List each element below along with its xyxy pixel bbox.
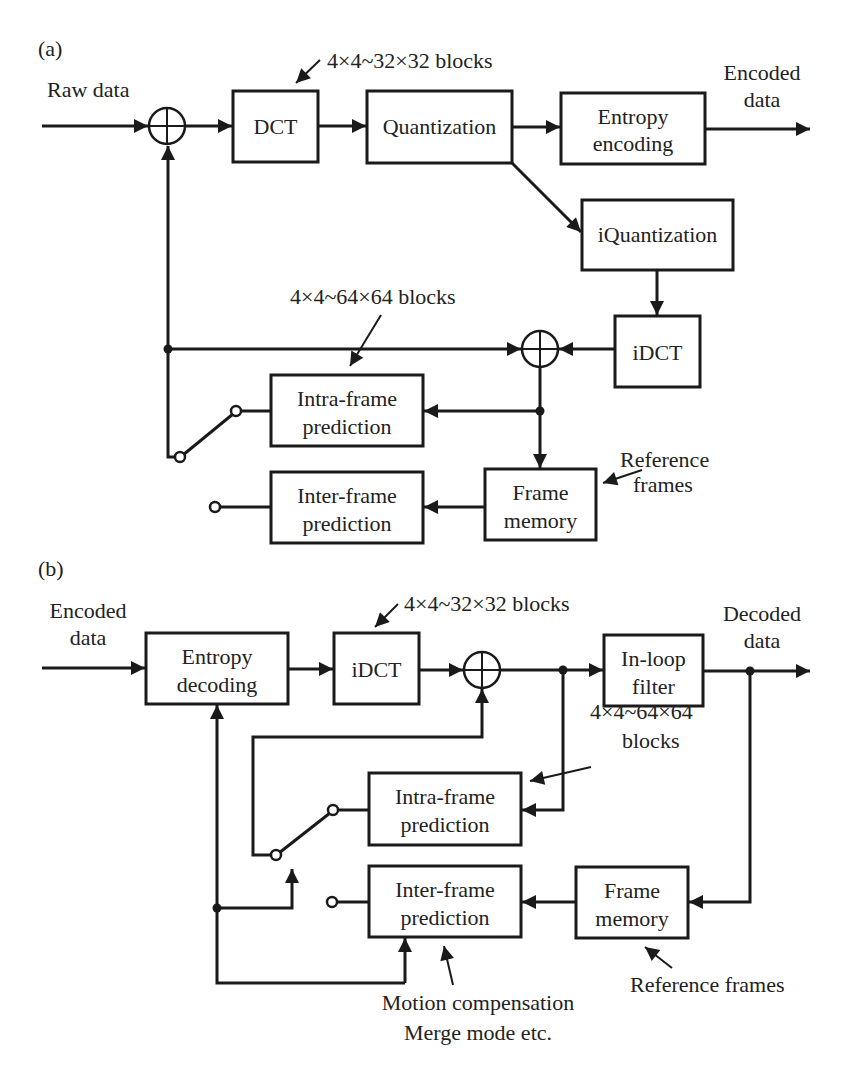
intra-prediction-block-b: Intra-frame prediction (369, 773, 521, 845)
inter-b-label-1: Inter-frame (395, 877, 495, 902)
inter-prediction-block-b: Inter-frame prediction (369, 866, 521, 937)
merge-mode-label: Merge mode etc. (404, 1020, 552, 1045)
panel-b-label: (b) (38, 556, 64, 581)
dct-block: DCT (233, 91, 318, 162)
frame-memory-block-b: Frame memory (576, 867, 688, 938)
arrow-to-intra-b (522, 670, 563, 810)
transform-block-size-b-label: 4×4~32×32 blocks (404, 591, 570, 616)
frame-memory-label-2: memory (504, 508, 577, 533)
entropy-decoding-block: Entropy decoding (146, 633, 288, 704)
intra-label-1: Intra-frame (297, 386, 397, 411)
panel-a-encoder: (a) Raw data DCT 4×4~32×32 blocks Quanti… (38, 36, 810, 543)
intra-b-label-2: prediction (400, 812, 489, 837)
inloop-filter-block: In-loop filter (604, 635, 703, 706)
panel-a-label: (a) (38, 36, 62, 61)
intra-b-label-1: Intra-frame (395, 784, 495, 809)
frame-memory-label-1: Frame (512, 480, 568, 505)
prediction-block-size-b-label-2: blocks (622, 728, 679, 753)
encoded-data-input-label-1: Encoded (50, 598, 127, 623)
motion-compensation-label: Motion compensation (382, 990, 574, 1015)
prediction-block-size-label: 4×4~64×64 blocks (290, 284, 456, 309)
encoded-data-label-1: Encoded (724, 60, 801, 85)
encoded-data-label-2: data (744, 87, 781, 112)
decoded-data-label-2: data (744, 628, 781, 653)
inter-label-1: Inter-frame (297, 483, 397, 508)
inloop-label-1: In-loop (621, 646, 686, 671)
prediction-block-size-b-label-1: 4×4~64×64 (590, 699, 693, 724)
iquantization-block: iQuantization (582, 200, 733, 270)
entropy-encoding-block: Entropy encoding (561, 93, 705, 164)
adder-icon (149, 108, 185, 144)
reference-annotation-b-arrow (645, 947, 672, 968)
quantization-label: Quantization (383, 114, 497, 139)
intra-label-2: prediction (302, 414, 391, 439)
prediction-feedback-line (168, 146, 180, 457)
entropy-encoding-label-2: encoding (593, 131, 674, 156)
idct-b-label: iDCT (351, 657, 402, 682)
encoded-data-input-label-2: data (70, 625, 107, 650)
raw-data-label: Raw data (47, 77, 130, 102)
junction-dot (213, 904, 222, 913)
inter-b-label-2: prediction (400, 905, 489, 930)
prediction-annotation-arrow (350, 315, 381, 366)
frame-memory-b-label-2: memory (595, 906, 668, 931)
entropy-decoding-label-1: Entropy (182, 644, 253, 669)
prediction-annotation-b-arrow (530, 767, 591, 781)
junction-dot (164, 345, 173, 354)
reference-frames-b-label: Reference frames (630, 972, 785, 997)
adder-icon (464, 652, 500, 688)
mode-switch-b-icon (271, 805, 338, 860)
iquantization-label: iQuantization (598, 222, 718, 247)
idct-block: iDCT (615, 316, 700, 387)
transform-annotation-arrow (296, 60, 320, 83)
inter-label-2: prediction (302, 511, 391, 536)
inloop-label-2: filter (632, 674, 675, 699)
inter-prediction-block: Inter-frame prediction (271, 472, 423, 543)
frame-memory-b-label-1: Frame (604, 878, 660, 903)
dct-label: DCT (254, 114, 299, 139)
side-info-to-switch-arrow (217, 869, 292, 908)
transform-block-size-label: 4×4~32×32 blocks (327, 48, 493, 73)
idct-label: iDCT (632, 340, 683, 365)
reference-frames-label-1: Reference (620, 447, 709, 472)
decoded-data-label-1: Decoded (723, 601, 801, 626)
arrow-to-iquantization (512, 163, 581, 232)
quantization-block: Quantization (367, 91, 512, 163)
adder-icon (522, 331, 558, 367)
switch-contact-icon (210, 502, 220, 512)
reference-frames-label-2: frames (633, 472, 693, 497)
transform-annotation-b-arrow (375, 604, 398, 627)
panel-b-decoder: (b) Encoded data Entropy decoding iDCT 4… (38, 556, 810, 1045)
intra-prediction-block: Intra-frame prediction (271, 375, 423, 446)
motion-annotation-arrow (444, 946, 453, 985)
mode-switch-icon (175, 406, 241, 462)
idct-block-b: iDCT (334, 633, 419, 704)
frame-memory-block: Frame memory (485, 469, 596, 540)
switch-contact-icon (327, 897, 337, 907)
entropy-encoding-label-1: Entropy (598, 104, 669, 129)
entropy-decoding-label-2: decoding (177, 672, 258, 697)
codec-diagram: (a) Raw data DCT 4×4~32×32 blocks Quanti… (0, 0, 845, 1076)
